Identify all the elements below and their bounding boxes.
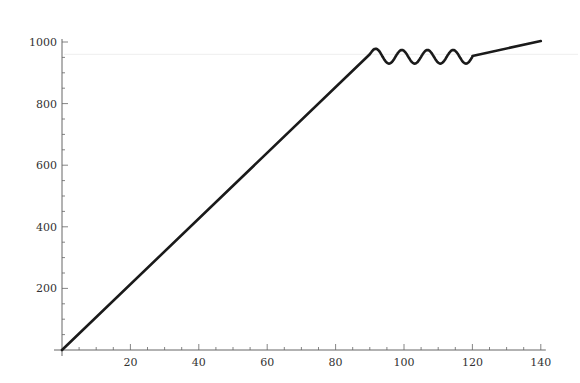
- x-axis-ticks: 20406080100120140: [79, 344, 551, 369]
- x-tick-label: 140: [530, 356, 551, 369]
- x-tick-label: 120: [462, 356, 483, 369]
- data-series: [62, 41, 541, 350]
- line-chart: 2004006008001000 20406080100120140: [0, 0, 580, 383]
- y-tick-label: 800: [36, 98, 57, 111]
- x-tick-label: 80: [329, 356, 343, 369]
- y-tick-label: 1000: [29, 36, 57, 49]
- x-tick-label: 20: [123, 356, 137, 369]
- axes: [54, 39, 546, 356]
- y-tick-label: 400: [36, 221, 57, 234]
- x-tick-label: 60: [260, 356, 274, 369]
- y-tick-label: 200: [36, 282, 57, 295]
- y-tick-label: 600: [36, 159, 57, 172]
- x-tick-label: 40: [192, 356, 206, 369]
- series-line: [62, 41, 541, 350]
- x-tick-label: 100: [394, 356, 415, 369]
